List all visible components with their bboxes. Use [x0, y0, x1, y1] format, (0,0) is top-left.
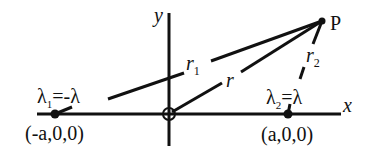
r1-line-segment-b [108, 73, 184, 99]
x-axis-label: x [342, 94, 352, 116]
dipole-line-charge-diagram: y x P r1 r r2 λ1=-λ λ2=λ (-a,0,0) (a,0,0… [0, 0, 372, 157]
r2-line-segment-b [300, 67, 304, 79]
r-label: r [226, 69, 234, 91]
charge-lambda2-position: (a,0,0) [261, 123, 313, 146]
charge-lambda2-label: λ2=λ [266, 86, 302, 111]
y-axis-label: y [152, 4, 163, 27]
r-line-segment-a [172, 83, 222, 112]
r2-label: r2 [306, 44, 320, 70]
r1-label: r1 [186, 52, 200, 78]
charge-lambda1-label: λ1=-λ [37, 85, 80, 110]
charge-lambda1-position: (-a,0,0) [25, 122, 84, 145]
point-p-label: P [330, 12, 341, 34]
